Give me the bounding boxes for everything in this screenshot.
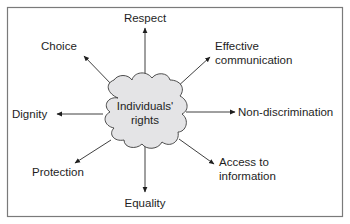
label-protection: Protection	[32, 166, 84, 178]
center-label-line2: rights	[131, 114, 159, 126]
rights-diagram: Individuals' rights Respect Choice Effec…	[0, 0, 350, 224]
label-equality: Equality	[125, 197, 166, 209]
label-effective-communication-line1: Effective	[215, 40, 259, 52]
label-non-discrimination: Non-discrimination	[238, 106, 333, 118]
label-respect: Respect	[124, 12, 167, 24]
label-access-to-information-line2: information	[219, 170, 276, 182]
label-effective-communication-line2: communication	[215, 54, 292, 66]
label-choice: Choice	[41, 40, 77, 52]
label-dignity: Dignity	[12, 108, 47, 120]
center-label-line1: Individuals'	[117, 100, 174, 112]
label-access-to-information-line1: Access to	[219, 156, 269, 168]
